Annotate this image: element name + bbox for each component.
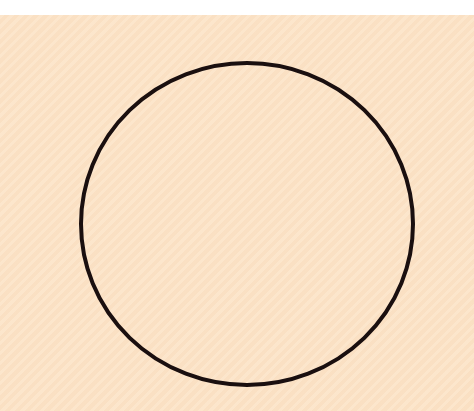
circle-outline bbox=[81, 63, 413, 385]
circle-diagram bbox=[0, 0, 474, 411]
figure bbox=[0, 0, 474, 411]
